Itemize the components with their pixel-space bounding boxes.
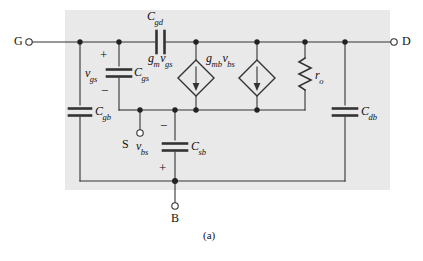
- circuit-schematic: [0, 0, 423, 261]
- junction-dot: [193, 107, 198, 112]
- cgb-symbol: C: [95, 104, 103, 118]
- terminal-label-bulk: B: [171, 212, 179, 224]
- component-label-ro: ro: [315, 69, 324, 84]
- junction-dot: [137, 107, 142, 112]
- component-label-cgd: Cgd: [147, 10, 164, 25]
- cdb-symbol: C: [361, 104, 369, 118]
- voltage-label-vgs: vgs: [85, 67, 98, 82]
- csb-subscript: sb: [199, 147, 207, 157]
- junction-dot: [254, 39, 259, 44]
- component-label-cgb: Cgb: [95, 105, 112, 120]
- dependent-source-gmvgs-arrow-head: [193, 83, 200, 91]
- gate-terminal-circle[interactable]: [26, 39, 32, 45]
- junction-dot: [116, 39, 121, 44]
- vbs-minus-sign: −: [160, 119, 167, 132]
- terminal-label-gate: G: [14, 35, 23, 47]
- cdb-subscript: db: [369, 112, 378, 122]
- gm-subscript: m: [154, 59, 160, 69]
- csb-symbol: C: [191, 139, 199, 153]
- junction-dot: [302, 39, 307, 44]
- component-label-cdb: Cdb: [361, 105, 378, 120]
- vbs-subscript: bs: [141, 147, 149, 157]
- ro-subscript: o: [319, 76, 323, 86]
- bulk-terminal-circle[interactable]: [172, 203, 178, 209]
- vbs-plus-sign: +: [159, 161, 166, 174]
- figure-caption: (a): [203, 230, 215, 241]
- source-label-gmbvbs: gmbvbs: [206, 52, 235, 67]
- voltage-label-vbs: vbs: [136, 140, 149, 155]
- resistor-ro-zigzag: [299, 58, 311, 90]
- terminal-label-drain: D: [402, 35, 411, 47]
- component-label-csb: Csb: [191, 140, 207, 155]
- gmbvbs-ctrl-subscript: bs: [227, 59, 235, 69]
- cgd-subscript: gd: [155, 17, 164, 27]
- drain-terminal-circle[interactable]: [391, 39, 397, 45]
- cgd-symbol: C: [147, 9, 155, 23]
- figure-root: G D S B Cgd Cgs Cgb Csb Cdb ro vgs + − v…: [0, 0, 423, 261]
- junction-dot: [342, 39, 347, 44]
- source-terminal-circle[interactable]: [137, 130, 143, 136]
- terminal-label-source: S: [122, 138, 129, 150]
- vgs-subscript: gs: [90, 74, 98, 84]
- source-label-gmvgs: gmvgs: [148, 52, 173, 67]
- gmb-subscript: mb: [212, 59, 222, 69]
- junction-dot: [172, 107, 177, 112]
- cgb-subscript: gb: [103, 112, 112, 122]
- vgs-minus-sign: −: [101, 84, 108, 97]
- junction-dot: [254, 107, 259, 112]
- cgs-symbol: C: [134, 65, 142, 79]
- component-label-cgs: Cgs: [134, 66, 150, 81]
- dependent-source-gmbvbs-arrow-head: [254, 83, 261, 91]
- junction-dot: [193, 39, 198, 44]
- junction-dot: [172, 178, 178, 184]
- junction-dot: [77, 39, 82, 44]
- gmvgs-ctrl-subscript: gs: [165, 59, 173, 69]
- cgs-subscript: gs: [142, 73, 150, 83]
- vgs-plus-sign: +: [100, 48, 107, 61]
